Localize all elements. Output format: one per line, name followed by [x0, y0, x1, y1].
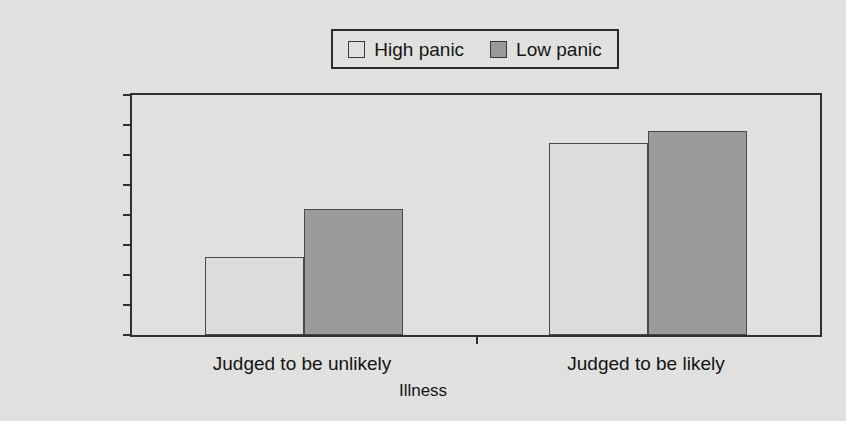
x-axis-tick-mark	[476, 335, 478, 344]
y-axis-tick-mark	[123, 94, 132, 96]
legend-swatch-high-panic-icon	[348, 41, 365, 58]
x-axis-category-label: Judged to be likely	[567, 354, 724, 373]
chart-legend: High panic Low panic	[331, 29, 619, 69]
x-axis-title: Illness	[0, 382, 846, 399]
x-axis-category-label: Judged to be unlikely	[213, 354, 392, 373]
y-axis-tick-mark	[123, 184, 132, 186]
bar-low-panic-0	[304, 209, 403, 335]
y-axis-tick-mark	[123, 214, 132, 216]
plot-inner: 8.38.258.28.158.18.0587.957.9	[132, 95, 820, 335]
y-axis-tick-mark	[123, 274, 132, 276]
y-axis-tick-mark	[123, 244, 132, 246]
y-axis-tick-mark	[123, 124, 132, 126]
y-axis-tick-mark	[123, 334, 132, 336]
bar-chart-figure: High panic Low panic Preference for fatt…	[0, 0, 846, 421]
legend-entry-low-panic: Low panic	[490, 40, 602, 59]
legend-swatch-low-panic-icon	[490, 41, 507, 58]
plot-area: 8.38.258.28.158.18.0587.957.9	[130, 93, 822, 337]
legend-label-low-panic: Low panic	[516, 40, 602, 59]
bar-high-panic-0	[205, 257, 304, 335]
bar-low-panic-1	[648, 131, 747, 335]
legend-entry-high-panic: High panic	[348, 40, 464, 59]
legend-label-high-panic: High panic	[374, 40, 464, 59]
y-axis-tick-mark	[123, 304, 132, 306]
bar-high-panic-1	[549, 143, 648, 335]
y-axis-tick-mark	[123, 154, 132, 156]
